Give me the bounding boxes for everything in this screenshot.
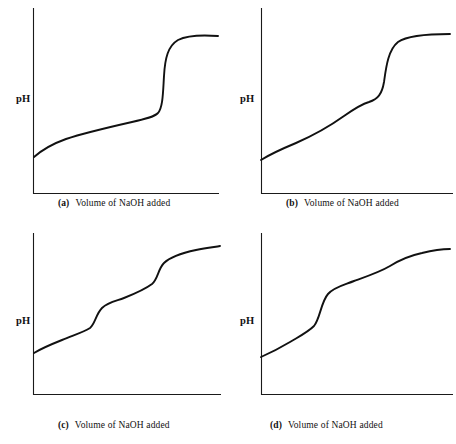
panel-b-caption-tag: (b) [286,198,298,208]
panel-b-curve [261,34,450,160]
panel-b: pH (b)Volume of NaOH added [228,0,456,222]
panel-a-caption: (a)Volume of NaOH added [58,199,170,209]
panel-d: pH (d)Volume of NaOH added [228,222,456,444]
panel-b-caption: (b)Volume of NaOH added [286,199,399,209]
panel-d-plot [228,222,456,444]
panel-d-caption-text: Volume of NaOH added [288,420,383,430]
panel-c-y-axis-label: pH [16,316,30,327]
panel-c-axes [34,233,222,395]
panel-d-caption: (d)Volume of NaOH added [270,421,383,431]
panel-a-caption-text: Volume of NaOH added [75,198,170,208]
panel-a-caption-tag: (a) [58,198,69,208]
panel-b-y-axis-label: pH [240,94,254,105]
panel-a-curve [34,35,218,157]
panel-d-axes [262,233,454,395]
panel-d-curve [261,249,450,357]
panel-d-caption-tag: (d) [270,420,282,430]
panel-c-caption: (c)Volume of NaOH added [58,421,170,431]
panel-c-caption-tag: (c) [58,420,69,430]
panel-b-caption-text: Volume of NaOH added [304,198,399,208]
panel-c-curve [34,246,220,353]
panel-c-caption-text: Volume of NaOH added [75,420,170,430]
panel-b-plot [228,0,456,222]
panel-c-plot [0,222,228,444]
titration-curves-figure: pH (a)Volume of NaOH added pH (b)Volume … [0,0,456,444]
panel-c: pH (c)Volume of NaOH added [0,222,228,444]
panel-a-y-axis-label: pH [16,94,30,105]
panel-a-plot [0,0,228,222]
panel-a: pH (a)Volume of NaOH added [0,0,228,222]
panel-d-y-axis-label: pH [240,316,254,327]
